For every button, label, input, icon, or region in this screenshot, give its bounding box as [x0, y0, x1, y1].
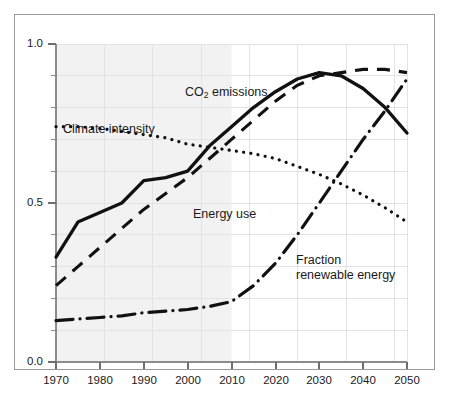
annotation-co2-text: CO	[185, 85, 204, 99]
annotation-co2-suffix: emissions	[208, 85, 267, 99]
x-tick-label-2010: 2010	[209, 374, 255, 386]
annotation-fraction-line2: renewable energy	[296, 268, 395, 283]
chart-frame: 1.0 0.5 0.0 1970 1980 1990 2000 2010 202…	[14, 14, 435, 370]
x-tick-label-2020: 2020	[253, 374, 299, 386]
x-tick-label-1990: 1990	[121, 374, 167, 386]
y-tick-label-2: 0.5	[13, 196, 43, 208]
y-tick-label-1: 1.0	[13, 37, 43, 49]
x-tick-label-1980: 1980	[77, 374, 123, 386]
x-axis-ticks	[56, 362, 407, 369]
annotation-energy-use: Energy use	[193, 207, 256, 222]
annotation-co2-emissions: CO2 emissions	[185, 85, 268, 100]
x-tick-label-2030: 2030	[296, 374, 342, 386]
figure-container: 1.0 0.5 0.0 1970 1980 1990 2000 2010 202…	[0, 0, 450, 415]
annotation-fraction-line1: Fraction	[296, 253, 395, 268]
annotation-climate-intensity: Climate intensity	[63, 122, 155, 137]
annotation-co2-subscript: 2	[204, 90, 209, 100]
y-axis-major-ticks	[48, 44, 56, 362]
y-tick-label-3: 0.0	[13, 355, 43, 367]
annotation-fraction-renewable: Fraction renewable energy	[296, 253, 395, 284]
x-tick-label-1970: 1970	[33, 374, 79, 386]
x-tick-label-2050: 2050	[384, 374, 430, 386]
x-tick-label-2040: 2040	[340, 374, 386, 386]
line-chart-plot	[15, 15, 434, 369]
x-tick-label-2000: 2000	[165, 374, 211, 386]
